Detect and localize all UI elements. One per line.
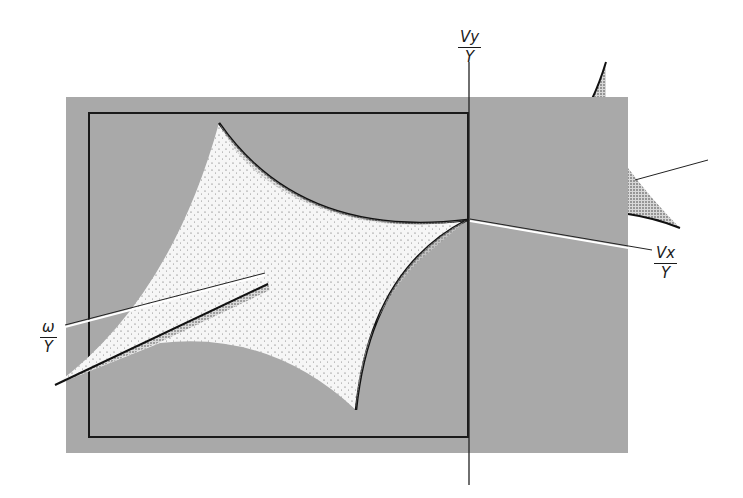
vy-label-numerator: Vy [458, 30, 481, 48]
vx-axis-label: Vx Y [654, 246, 677, 281]
diagram-canvas: Vy Y Vx Y ω Y [0, 0, 743, 498]
diagram-svg [0, 0, 743, 498]
omega-label-numerator: ω [40, 320, 57, 338]
vy-label-denominator: Y [465, 48, 474, 65]
rear-envelope-top-spike [592, 62, 606, 99]
vx-axis-rear-line [635, 160, 708, 180]
vx-label-denominator: Y [661, 264, 670, 281]
vx-label-numerator: Vx [654, 246, 677, 264]
vy-axis-label: Vy Y [458, 30, 481, 65]
omega-label-denominator: Y [44, 338, 53, 355]
omega-axis-label: ω Y [40, 320, 57, 355]
rear-envelope-right-spike [628, 168, 680, 228]
